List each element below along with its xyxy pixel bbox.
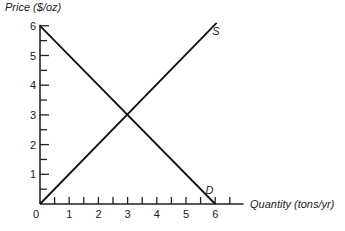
x-tick-label: 3 bbox=[125, 208, 131, 220]
x-axis-label: Quantity (tons/yr) bbox=[250, 198, 335, 210]
x-ticks: 0123456 bbox=[33, 197, 230, 220]
series-group: SD bbox=[40, 23, 220, 204]
x-tick-label: 1 bbox=[66, 208, 72, 220]
x-tick-label: 4 bbox=[154, 208, 160, 220]
y-tick-label: 5 bbox=[30, 50, 36, 62]
x-tick-label: 0 bbox=[33, 208, 39, 220]
x-tick-label: 5 bbox=[183, 208, 189, 220]
y-tick-label: 6 bbox=[30, 20, 36, 32]
x-tick-label: 6 bbox=[212, 208, 218, 220]
series-label-s: S bbox=[212, 25, 220, 37]
y-tick-label: 1 bbox=[30, 168, 36, 180]
series-label-d: D bbox=[206, 184, 214, 196]
y-axis-label: Price ($/oz) bbox=[5, 1, 62, 13]
y-tick-label: 4 bbox=[30, 79, 36, 91]
x-tick-label: 2 bbox=[95, 208, 101, 220]
series-line-s bbox=[40, 23, 217, 204]
chart-svg: Price ($/oz) Quantity (tons/yr) 123456 0… bbox=[0, 0, 345, 231]
y-tick-label: 3 bbox=[30, 109, 36, 121]
y-tick-label: 2 bbox=[30, 139, 36, 151]
